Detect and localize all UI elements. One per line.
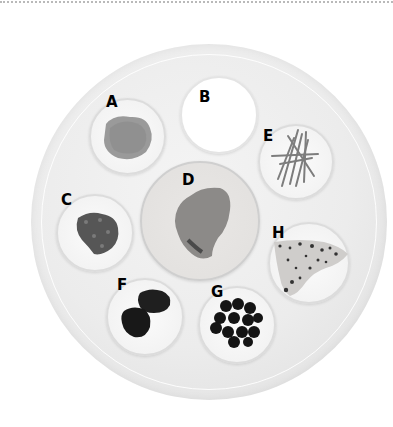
sample-h-speckled-sheet [270, 238, 354, 298]
label-h: H [272, 226, 285, 241]
label-e: E [263, 129, 273, 144]
sample-e-strands [268, 124, 328, 194]
label-c: C [61, 193, 72, 208]
label-a: A [106, 95, 118, 110]
label-b: B [199, 90, 210, 105]
sample-c-flakes [72, 208, 122, 258]
dotted-top-border [0, 1, 393, 3]
sample-g-berries [208, 296, 268, 352]
label-d: D [182, 173, 194, 188]
dish-b [180, 76, 258, 154]
label-g: G [211, 285, 223, 300]
sample-a-granules [100, 112, 156, 162]
sample-d-lump [172, 182, 236, 262]
label-f: F [117, 278, 127, 293]
